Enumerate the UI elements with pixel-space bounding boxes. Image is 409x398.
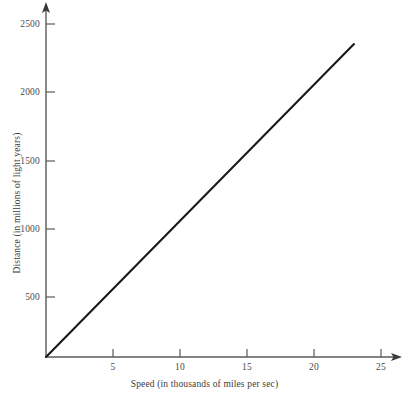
x-axis-title: Speed (in thousands of miles per sec)	[0, 379, 409, 389]
x-tick-label-20: 20	[309, 362, 319, 372]
x-tick-label-15: 15	[242, 362, 252, 372]
x-tick-label-25: 25	[376, 362, 386, 372]
y-tick-label-1000: 1000	[4, 224, 40, 234]
data-series-line	[46, 44, 354, 357]
y-tick-label-2500: 2500	[4, 19, 40, 29]
y-tick-label-2000: 2000	[4, 87, 40, 97]
y-tick-label-1500: 1500	[4, 156, 40, 166]
x-tick-label-5: 5	[111, 362, 116, 372]
chart-container: 500 1000 1500 2000 2500 5 10 15 20 25 Sp…	[0, 0, 409, 398]
y-axis-title: Distance (in millions of light years)	[12, 108, 22, 298]
y-tick-label-500: 500	[4, 292, 40, 302]
plot-area	[0, 0, 409, 398]
x-tick-label-10: 10	[175, 362, 185, 372]
